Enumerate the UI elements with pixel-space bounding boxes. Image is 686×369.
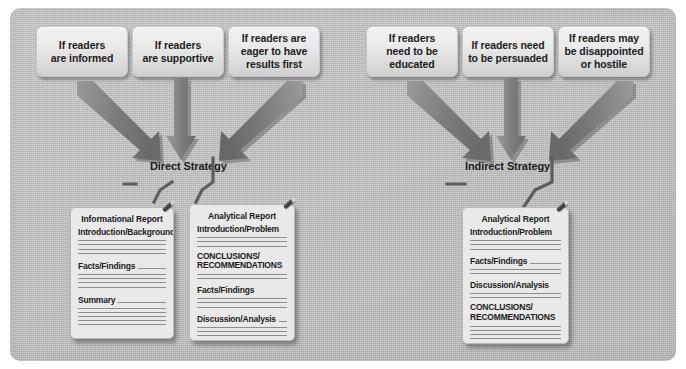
doc-rule: [138, 268, 166, 269]
doc-rule: [78, 324, 166, 325]
doc-rule: [78, 320, 166, 321]
document-title: Analytical Report: [470, 214, 561, 224]
doc-rule: [118, 302, 166, 303]
document-section: Summary: [78, 295, 115, 305]
condition-box-educated: If readers need to be educated: [366, 26, 458, 77]
condition-label: If readers are eager to have results fir…: [241, 32, 307, 71]
doc-rule: [78, 287, 166, 288]
doc-rule: [197, 278, 287, 279]
doc-rule: [197, 237, 287, 238]
doc-rule: [470, 293, 561, 294]
doc-rule: [78, 278, 166, 279]
doc-rule: [470, 338, 561, 339]
arrow-down-left-branch: [166, 78, 206, 163]
condition-label: If readers may be disappointed or hostil…: [564, 32, 643, 71]
doc-rule: [470, 334, 561, 335]
document-section: Facts/Findings: [78, 261, 135, 271]
document-section: CONCLUSIONS/ RECOMMENDATIONS: [470, 303, 561, 322]
doc-rule: [78, 312, 166, 313]
document-section: Introduction/Problem: [197, 224, 279, 234]
doc-rule: [470, 240, 561, 241]
condition-label: If readers need to be educated: [386, 32, 438, 71]
doc-rule: [197, 307, 287, 308]
doc-rule: [470, 326, 561, 327]
condition-label: If readers are supportive: [143, 39, 214, 65]
doc-rule: [197, 241, 287, 242]
document-section: Discussion/Analysis: [197, 314, 276, 324]
condition-box-eager: If readers are eager to have results fir…: [228, 26, 320, 77]
connector-indirect-strategy: [435, 156, 575, 211]
arrow-diagonal-down-left-right-branch: [540, 78, 650, 163]
document-analytical-report-direct: Analytical Report Introduction/Problem C…: [189, 204, 295, 341]
document-section: CONCLUSIONS/ RECOMMENDATIONS: [197, 252, 287, 271]
doc-rule: [197, 331, 287, 332]
doc-rule: [78, 316, 166, 317]
arrow-diagonal-down-left-left-branch: [210, 78, 320, 163]
condition-box-persuaded: If readers need to be persuaded: [462, 26, 554, 77]
doc-rule: [470, 297, 561, 298]
doc-rule: [197, 302, 287, 303]
image-frame: If readers are informed If readers are s…: [0, 0, 686, 369]
doc-rule: [197, 327, 287, 328]
condition-label: If readers are informed: [51, 39, 113, 65]
doc-rule: [197, 335, 287, 336]
doc-rule: [78, 253, 166, 254]
doc-rule: [78, 249, 166, 250]
doc-rule: [197, 246, 287, 247]
condition-box-hostile: If readers may be disappointed or hostil…: [558, 26, 650, 77]
condition-box-supportive: If readers are supportive: [132, 26, 224, 77]
condition-box-informed: If readers are informed: [36, 26, 128, 77]
doc-rule: [78, 240, 166, 241]
doc-rule: [530, 263, 561, 264]
doc-rule: [470, 273, 561, 274]
doc-rule: [197, 274, 287, 275]
document-analytical-report-indirect: Analytical Report Introduction/Problem F…: [462, 207, 569, 344]
connector-direct-strategy: [110, 156, 240, 206]
doc-rule: [78, 308, 166, 309]
document-section: Discussion/Analysis: [470, 280, 549, 290]
document-section: Facts/Findings: [197, 285, 254, 295]
doc-rule: [78, 274, 166, 275]
doc-rule: [470, 244, 561, 245]
condition-label: If readers need to be persuaded: [468, 39, 548, 65]
doc-rule: [197, 298, 287, 299]
document-title: Analytical Report: [197, 211, 287, 221]
doc-rule: [78, 244, 166, 245]
document-section: Introduction/Problem: [470, 227, 552, 237]
doc-rule: [279, 321, 287, 322]
doc-rule: [470, 249, 561, 250]
arrow-down-right-branch: [496, 78, 536, 163]
doc-rule: [78, 282, 166, 283]
document-section: Introduction/Background: [78, 227, 174, 237]
doc-rule: [470, 269, 561, 270]
diagram-canvas: If readers are informed If readers are s…: [10, 8, 676, 361]
document-section: Facts/Findings: [470, 256, 527, 266]
document-title: Informational Report: [78, 214, 166, 224]
doc-rule: [470, 330, 561, 331]
document-informational-report: Informational Report Introduction/Backgr…: [70, 207, 174, 339]
